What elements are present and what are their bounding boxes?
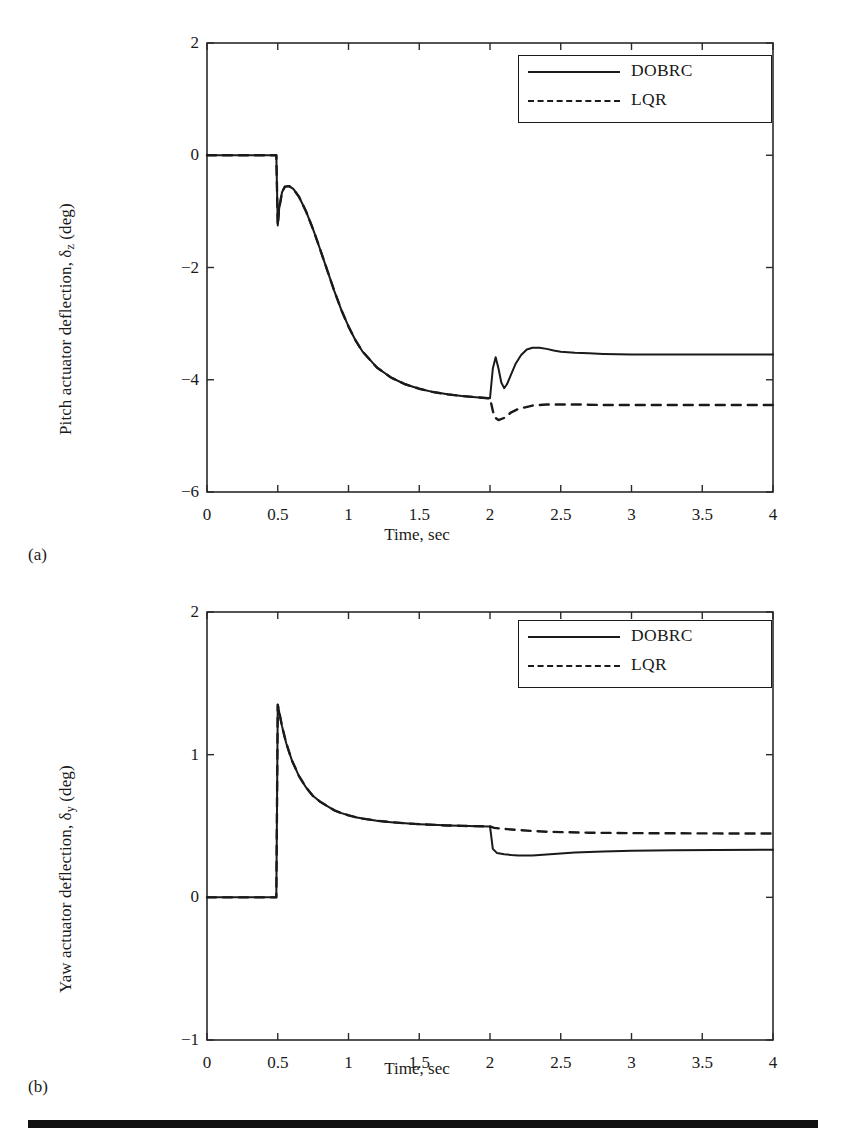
chart-b-x-tick-label: 2 (486, 1053, 495, 1073)
chart-b-legend: DOBRCLQR (518, 620, 772, 688)
footer-rule (28, 1120, 818, 1128)
legend-entry-lqr: LQR (519, 650, 771, 679)
chart-a-y-axis-label: Pitch actuator deflection, δz (deg) (56, 203, 78, 435)
legend-line-swatch-dashed (528, 93, 620, 107)
legend-label: DOBRC (631, 62, 693, 80)
chart-a-y-tick-label: −2 (161, 258, 199, 278)
chart-b-x-tick-label: 1.5 (409, 1053, 430, 1073)
chart-a-legend: DOBRCLQR (518, 55, 772, 123)
chart-a-y-tick-label: −6 (161, 482, 199, 502)
chart-b-y-tick-label: 1 (161, 745, 199, 765)
legend-entry-lqr: LQR (519, 85, 771, 114)
chart-a-x-tick-label: 2 (486, 505, 495, 525)
chart-a-y-axis-label-base: Pitch actuator deflection, δ (56, 250, 75, 435)
chart-a-y-axis-label-tail: (deg) (56, 203, 75, 244)
figure-container: Pitch actuator deflection, δz (deg) Time… (0, 0, 846, 1144)
chart-a-x-tick-label: 1.5 (409, 505, 430, 525)
chart-a-series-dobrc (207, 155, 773, 398)
legend-entry-dobrc: DOBRC (519, 621, 771, 650)
chart-b-y-axis-label-tail: (deg) (56, 765, 75, 806)
chart-b-y-tick-label: −1 (161, 1030, 199, 1050)
chart-b-y-axis-label: Yaw actuator deflection, δy (deg) (56, 765, 78, 993)
legend-entry-dobrc: DOBRC (519, 56, 771, 85)
legend-label: LQR (631, 91, 667, 109)
chart-a-x-tick-label: 2.5 (550, 505, 571, 525)
chart-a-y-tick-label: 0 (161, 145, 199, 165)
legend-line-swatch-dashed (528, 658, 620, 672)
legend-line-swatch-solid (528, 64, 620, 78)
chart-b-x-tick-label: 2.5 (550, 1053, 571, 1073)
legend-label: LQR (631, 656, 667, 674)
chart-a-x-tick-label: 3.5 (692, 505, 713, 525)
chart-panel-a: Pitch actuator deflection, δz (deg) Time… (0, 0, 846, 580)
chart-b-x-tick-label: 3 (627, 1053, 636, 1073)
chart-a-x-tick-label: 0.5 (267, 505, 288, 525)
chart-b-series-dobrc (207, 705, 773, 898)
legend-label: DOBRC (631, 627, 693, 645)
chart-a-y-tick-label: 2 (161, 33, 199, 53)
legend-line-swatch-solid (528, 629, 620, 643)
chart-a-y-tick-label: −4 (161, 370, 199, 390)
chart-a-x-tick-label: 3 (627, 505, 636, 525)
panel-a-tag: (a) (28, 545, 47, 565)
chart-b-series-lqr (207, 705, 773, 898)
chart-b-y-tick-label: 0 (161, 887, 199, 907)
chart-b-x-tick-label: 3.5 (692, 1053, 713, 1073)
chart-panel-b: Yaw actuator deflection, δy (deg) Time, … (0, 565, 846, 1125)
chart-a-series-lqr (207, 155, 773, 420)
chart-b-y-tick-label: 2 (161, 602, 199, 622)
chart-a-y-axis-label-sub: z (63, 244, 77, 250)
chart-a-x-axis-label: Time, sec (384, 525, 450, 545)
chart-a-x-tick-label: 4 (769, 505, 778, 525)
chart-b-x-tick-label: 4 (769, 1053, 778, 1073)
chart-a-x-tick-label: 1 (344, 505, 353, 525)
panel-b-tag: (b) (28, 1077, 48, 1097)
chart-b-x-tick-label: 1 (344, 1053, 353, 1073)
chart-b-y-axis-label-base: Yaw actuator deflection, δ (56, 812, 75, 993)
chart-b-y-axis-label-sub: y (63, 806, 77, 812)
chart-a-x-tick-label: 0 (203, 505, 212, 525)
chart-b-x-tick-label: 0 (203, 1053, 212, 1073)
chart-b-x-tick-label: 0.5 (267, 1053, 288, 1073)
